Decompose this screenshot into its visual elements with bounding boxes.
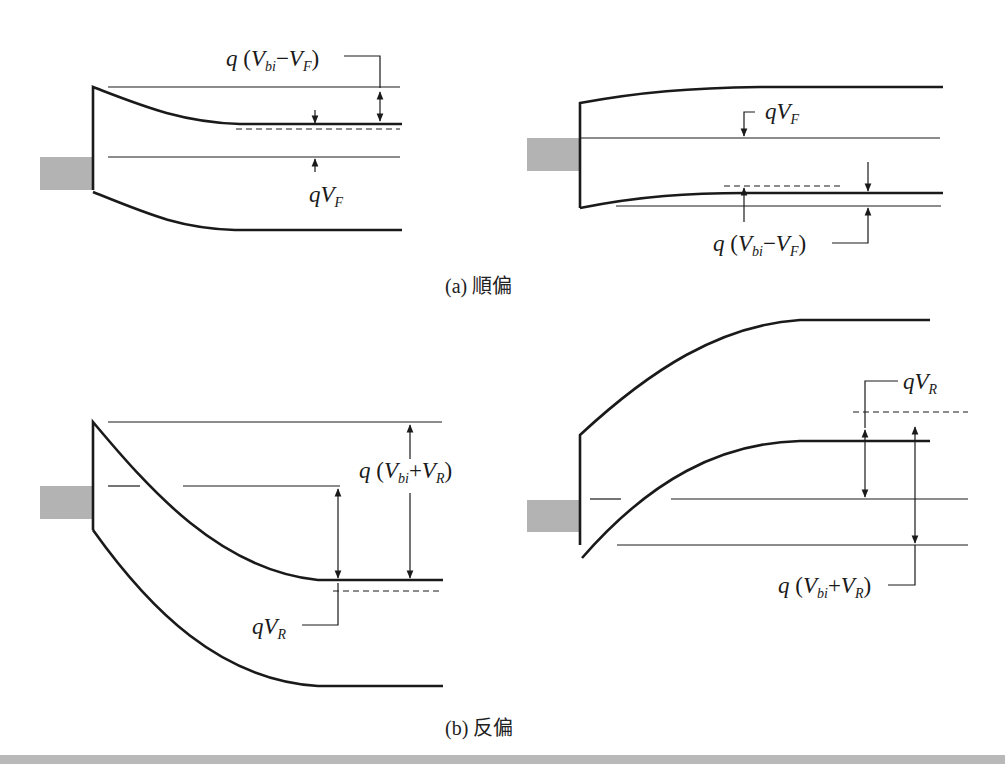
qvr-leader <box>302 583 338 625</box>
conduction-band-edge <box>93 87 402 190</box>
subscript-f: F <box>335 195 344 210</box>
qvf-leader <box>744 112 755 136</box>
label-b-left-qvr: qVR <box>252 615 286 642</box>
q-symbol: q <box>226 46 238 71</box>
paren-open: ( <box>795 573 803 598</box>
operator: + <box>828 573 841 598</box>
metal-fermi-block <box>40 486 93 519</box>
operator: − <box>276 46 289 71</box>
q-symbol: q <box>359 458 371 483</box>
valence-band-edge <box>93 192 402 230</box>
label-a-right-barrier: q (Vbi−VF) <box>713 232 806 259</box>
v-symbol: V <box>841 573 855 598</box>
paren-open: ( <box>730 231 738 256</box>
conduction-band-edge <box>580 87 943 208</box>
v-symbol: V <box>738 231 752 256</box>
q-symbol: q <box>309 182 321 207</box>
qvr-leader <box>865 381 898 428</box>
subscript-f: F <box>791 112 800 127</box>
valence-band-edge <box>93 530 443 686</box>
q-symbol: q <box>713 231 725 256</box>
q-symbol: q <box>903 369 915 394</box>
paren-open: ( <box>243 46 251 71</box>
v-symbol: V <box>777 99 791 124</box>
v-symbol: V <box>289 46 303 71</box>
caption-b-prefix: (b) <box>445 717 468 739</box>
metal-fermi-block <box>40 157 93 190</box>
band-diagram-canvas <box>0 0 1005 764</box>
q-symbol: q <box>778 573 790 598</box>
paren-close: ) <box>311 46 319 71</box>
panel-b-right-ptype-reverse <box>527 320 968 585</box>
page-bottom-edge <box>0 755 1005 764</box>
subscript-bi: bi <box>817 586 828 601</box>
metal-fermi-block <box>527 500 580 532</box>
label-b-left-barrier: q (Vbi+VR) <box>357 459 454 486</box>
conduction-band-edge <box>93 422 443 580</box>
label-a-right-qvf: qVF <box>765 100 799 127</box>
q-symbol: q <box>252 614 264 639</box>
operator: + <box>409 458 422 483</box>
barrier-label-leader <box>832 208 868 243</box>
paren-close: ) <box>444 458 452 483</box>
subscript-bi: bi <box>265 59 276 74</box>
v-symbol: V <box>264 614 278 639</box>
subscript-bi: bi <box>752 244 763 259</box>
v-symbol: V <box>422 458 436 483</box>
operator: − <box>763 231 776 256</box>
v-symbol: V <box>915 369 929 394</box>
v-symbol: V <box>384 458 398 483</box>
subscript-r: R <box>278 627 287 642</box>
conduction-band-edge <box>580 320 930 545</box>
panel-a-right-ptype-forward <box>527 87 943 243</box>
paren-close: ) <box>798 231 806 256</box>
caption-b-text: 反偏 <box>473 717 513 739</box>
label-b-right-qvr: qVR <box>903 370 937 397</box>
subscript-r: R <box>929 382 938 397</box>
barrier-label-leader <box>344 56 380 88</box>
q-symbol: q <box>765 99 777 124</box>
caption-a-text: 順偏 <box>472 275 512 297</box>
metal-fermi-block <box>527 138 580 171</box>
caption-a: (a) 順偏 <box>445 270 512 299</box>
label-a-left-qvf: qVF <box>309 183 343 210</box>
caption-a-prefix: (a) <box>445 275 467 297</box>
label-a-left-barrier: q (Vbi−VF) <box>226 47 319 74</box>
v-symbol: V <box>776 231 790 256</box>
subscript-bi: bi <box>398 471 409 486</box>
paren-close: ) <box>863 573 871 598</box>
paren-open: ( <box>376 458 384 483</box>
barrier-label-leader <box>888 545 915 585</box>
v-symbol: V <box>321 182 335 207</box>
v-symbol: V <box>803 573 817 598</box>
panel-a-left-ntype-forward <box>40 56 402 230</box>
label-b-right-barrier: q (Vbi+VR) <box>778 574 871 601</box>
v-symbol: V <box>251 46 265 71</box>
caption-b: (b) 反偏 <box>445 712 513 741</box>
